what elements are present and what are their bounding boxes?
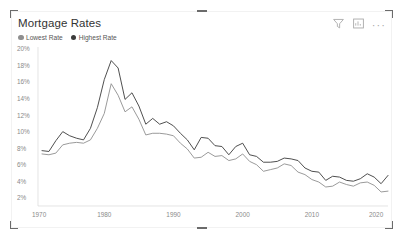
legend-label-highest-rate: Highest Rate bbox=[79, 34, 117, 42]
line-chart-svg: 20%18%16%14%12%10%8%6%4%2% 1970198019902… bbox=[11, 43, 392, 228]
x-axis: 197019801990200020102020 bbox=[32, 206, 388, 218]
resize-handle-top[interactable] bbox=[197, 10, 207, 12]
y-tick-label: 14% bbox=[17, 95, 30, 102]
x-tick-label: 1990 bbox=[166, 211, 181, 218]
x-tick-label: 2010 bbox=[305, 211, 320, 218]
resize-handle-bottom-left[interactable] bbox=[10, 221, 18, 229]
visual-header: Mortgage Rates ··· bbox=[18, 15, 388, 33]
focus-mode-icon[interactable] bbox=[352, 17, 365, 30]
y-axis: 20%18%16%14%12%10%8%6%4%2% bbox=[17, 45, 38, 206]
y-tick-label: 10% bbox=[17, 128, 30, 135]
visual-header-icons: ··· bbox=[332, 17, 386, 30]
legend-marker-highest-rate bbox=[71, 35, 77, 41]
chart-series bbox=[42, 61, 388, 192]
legend-item-lowest-rate[interactable]: Lowest Rate bbox=[18, 34, 63, 42]
legend-item-highest-rate[interactable]: Highest Rate bbox=[71, 34, 117, 42]
x-tick-label: 2000 bbox=[236, 211, 251, 218]
y-tick-label: 18% bbox=[17, 62, 30, 69]
x-tick-label: 1980 bbox=[97, 211, 112, 218]
chart-plot-area[interactable]: 20%18%16%14%12%10%8%6%4%2% 1970198019902… bbox=[11, 43, 392, 228]
legend-label-lowest-rate: Lowest Rate bbox=[26, 34, 63, 42]
x-tick-label: 1970 bbox=[32, 211, 47, 218]
mortgage-rates-visual[interactable]: Mortgage Rates ··· Lowest Rate Highe bbox=[11, 11, 392, 228]
y-tick-label: 6% bbox=[17, 161, 27, 168]
x-tick-label: 2020 bbox=[369, 211, 384, 218]
resize-handle-top-left[interactable] bbox=[10, 10, 18, 18]
legend-marker-lowest-rate bbox=[18, 35, 24, 41]
y-tick-label: 8% bbox=[17, 145, 27, 152]
y-tick-label: 2% bbox=[17, 194, 27, 201]
resize-handle-bottom-right[interactable] bbox=[385, 221, 393, 229]
resize-handle-top-right[interactable] bbox=[385, 10, 393, 18]
y-tick-label: 12% bbox=[17, 112, 30, 119]
chart-legend: Lowest Rate Highest Rate bbox=[18, 32, 117, 43]
y-tick-label: 16% bbox=[17, 78, 30, 85]
resize-handle-bottom[interactable] bbox=[197, 227, 207, 229]
more-options-icon[interactable]: ··· bbox=[372, 17, 386, 30]
filter-icon[interactable] bbox=[332, 17, 345, 30]
series-line-lowest-rate bbox=[42, 84, 388, 192]
series-line-highest-rate bbox=[42, 61, 388, 184]
y-tick-label: 4% bbox=[17, 178, 27, 185]
y-tick-label: 20% bbox=[17, 45, 30, 52]
